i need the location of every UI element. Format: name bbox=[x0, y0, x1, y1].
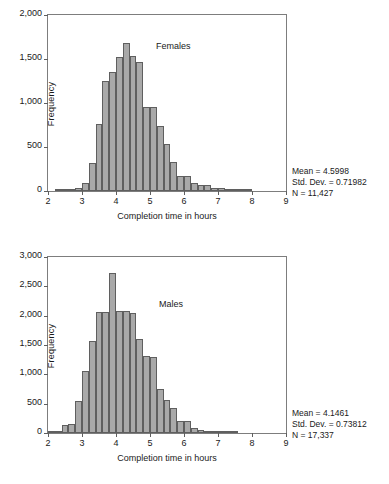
histogram-bar bbox=[232, 431, 239, 433]
histogram-bar bbox=[136, 62, 143, 191]
stats-block-males: Mean = 4.1461 Std. Dev. = 0.73812 N = 17… bbox=[292, 408, 367, 441]
histogram-bar bbox=[62, 189, 69, 191]
histogram-bar bbox=[102, 81, 109, 191]
chart-panel-males: 05001,0001,5002,0002,5003,000 23456789 F… bbox=[0, 242, 389, 484]
stat-n-females: N = 11,427 bbox=[292, 188, 367, 199]
histogram-bar bbox=[177, 421, 184, 433]
histogram-bar bbox=[143, 356, 150, 433]
histogram-bar bbox=[198, 185, 205, 191]
histogram-bar bbox=[164, 144, 171, 191]
histogram-bar bbox=[225, 431, 232, 433]
histogram-bars-males bbox=[48, 257, 286, 433]
histogram-bar bbox=[109, 273, 116, 433]
histogram-bar bbox=[204, 185, 211, 191]
histogram-bar bbox=[130, 56, 137, 191]
histogram-bar bbox=[68, 189, 75, 191]
histogram-bar bbox=[150, 357, 157, 433]
histogram-bar bbox=[62, 425, 69, 434]
histogram-bar bbox=[109, 72, 116, 191]
histogram-bar bbox=[211, 431, 218, 433]
stat-stddev-females: Std. Dev. = 0.71982 bbox=[292, 177, 367, 188]
histogram-bar bbox=[218, 431, 225, 433]
stats-block-females: Mean = 4.5998 Std. Dev. = 0.71982 N = 11… bbox=[292, 166, 367, 199]
histogram-bar bbox=[170, 408, 177, 433]
histogram-bar bbox=[177, 176, 184, 191]
plot-frame-females: 05001,0001,5002,000 23456789 Frequency F… bbox=[47, 14, 287, 192]
histogram-bar bbox=[136, 339, 143, 433]
stat-stddev-males: Std. Dev. = 0.73812 bbox=[292, 419, 367, 430]
histogram-bar bbox=[150, 107, 157, 191]
histogram-bar bbox=[211, 188, 218, 191]
histogram-bar bbox=[157, 126, 164, 191]
plot-area-males bbox=[48, 257, 286, 433]
histogram-bar bbox=[170, 162, 177, 191]
histogram-bar bbox=[89, 163, 96, 191]
histogram-bar bbox=[184, 176, 191, 191]
histogram-bar bbox=[191, 428, 198, 433]
stat-mean-males: Mean = 4.1461 bbox=[292, 408, 367, 419]
histogram-bar bbox=[238, 189, 245, 191]
histogram-bar bbox=[123, 43, 130, 191]
histogram-bar bbox=[218, 188, 225, 191]
plot-frame-males: 05001,0001,5002,0002,5003,000 23456789 F… bbox=[47, 256, 287, 434]
histogram-bar bbox=[82, 371, 89, 433]
histogram-bar bbox=[96, 124, 103, 191]
series-label-females: Females bbox=[156, 41, 191, 51]
y-axis-label-males: Frequency bbox=[46, 257, 56, 435]
histogram-bar bbox=[75, 401, 82, 433]
histogram-bar bbox=[116, 311, 123, 433]
histogram-bar bbox=[232, 189, 239, 191]
histogram-bar bbox=[245, 189, 252, 191]
histogram-bar bbox=[225, 189, 232, 191]
histogram-bar bbox=[204, 431, 211, 433]
histogram-bar bbox=[96, 312, 103, 433]
histogram-bar bbox=[130, 313, 137, 433]
y-axis-label-females: Frequency bbox=[46, 15, 56, 193]
histogram-bar bbox=[198, 430, 205, 433]
histogram-bar bbox=[143, 107, 150, 191]
figure-container: 05001,0001,5002,000 23456789 Frequency F… bbox=[0, 0, 389, 484]
histogram-bar bbox=[116, 57, 123, 191]
histogram-bar bbox=[191, 183, 198, 191]
stat-mean-females: Mean = 4.5998 bbox=[292, 166, 367, 177]
histogram-bar bbox=[82, 183, 89, 191]
histogram-bar bbox=[102, 312, 109, 433]
histogram-bar bbox=[89, 341, 96, 433]
x-axis-label-females: Completion time in hours bbox=[47, 211, 287, 221]
histogram-bar bbox=[123, 311, 130, 433]
histogram-bar bbox=[68, 424, 75, 433]
series-label-males: Males bbox=[159, 299, 183, 309]
x-axis-label-males: Completion time in hours bbox=[47, 453, 287, 463]
stat-n-males: N = 17,337 bbox=[292, 430, 367, 441]
histogram-bar bbox=[164, 400, 171, 433]
histogram-bar bbox=[157, 389, 164, 433]
histogram-bar bbox=[184, 421, 191, 433]
histogram-bar bbox=[75, 188, 82, 191]
chart-panel-females: 05001,0001,5002,000 23456789 Frequency F… bbox=[0, 0, 389, 242]
